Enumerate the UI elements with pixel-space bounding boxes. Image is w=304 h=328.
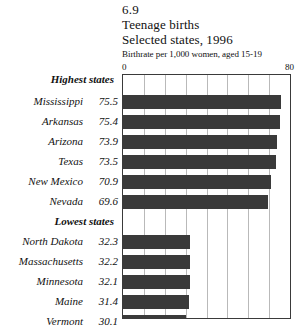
- bar-row: [123, 95, 290, 109]
- bar: [123, 235, 190, 249]
- bar: [123, 95, 281, 109]
- title-block: 6.9 Teenage births Selected states, 1996…: [122, 2, 304, 61]
- bar: [123, 135, 277, 149]
- category-label: Arkansas: [42, 114, 83, 128]
- category-label-row: Minnesota32.1: [0, 274, 118, 288]
- data-value-label: 73.9: [88, 134, 118, 148]
- bar: [123, 155, 276, 169]
- bar: [123, 295, 189, 309]
- category-label-row: Nevada69.6: [0, 194, 118, 208]
- figure-teenage-births: 6.9 Teenage births Selected states, 1996…: [0, 0, 304, 328]
- category-label-row: Mississippi75.5: [0, 94, 118, 108]
- category-label: Texas: [58, 154, 83, 168]
- data-value-label: 75.5: [88, 94, 118, 108]
- data-value-label: 32.3: [88, 234, 118, 248]
- x-axis-max-label: 80: [278, 62, 294, 72]
- bar: [123, 275, 190, 289]
- category-label-row: North Dakota32.3: [0, 234, 118, 248]
- bar-row: [123, 255, 290, 269]
- data-value-label: 75.4: [88, 114, 118, 128]
- bar: [123, 255, 190, 269]
- data-value-label: 32.2: [88, 254, 118, 268]
- category-label: Minnesota: [37, 274, 83, 288]
- category-label: North Dakota: [22, 234, 83, 248]
- data-value-label: 73.5: [88, 154, 118, 168]
- bar-row: [123, 115, 290, 129]
- bar-row: [123, 135, 290, 149]
- group-heading: Highest states: [0, 72, 118, 86]
- bar: [123, 195, 268, 209]
- bar-row: [123, 275, 290, 289]
- category-label-row: New Mexico70.9: [0, 174, 118, 188]
- category-label-row: Maine31.4: [0, 294, 118, 308]
- data-value-label: 70.9: [88, 174, 118, 188]
- bar-row: [123, 295, 290, 309]
- axis-units-note: Birthrate per 1,000 women, aged 15-19: [122, 48, 304, 61]
- category-label-row: Arizona73.9: [0, 134, 118, 148]
- bar-row: [123, 315, 290, 319]
- group-heading: Lowest states: [0, 214, 118, 228]
- bar-row: [123, 235, 290, 249]
- category-label: Nevada: [49, 194, 83, 208]
- data-value-label: 31.4: [88, 294, 118, 308]
- bar: [123, 315, 186, 319]
- figure-title-line2: Selected states, 1996: [122, 32, 304, 47]
- data-value-label: 30.1: [88, 314, 118, 328]
- data-value-label: 32.1: [88, 274, 118, 288]
- bar-row: [123, 175, 290, 189]
- bar-rows: [123, 75, 290, 318]
- category-label: New Mexico: [28, 174, 83, 188]
- category-label: Maine: [55, 294, 83, 308]
- figure-title-line1: Teenage births: [122, 17, 304, 32]
- category-label-column: Highest statesMississippi75.5Arkansas75.…: [0, 74, 120, 319]
- category-label-row: Vermont30.1: [0, 314, 118, 328]
- category-label: Massachusetts: [19, 254, 83, 268]
- plot-area: [122, 74, 291, 319]
- bar: [123, 115, 280, 129]
- bar-row: [123, 195, 290, 209]
- gridline: [290, 75, 291, 318]
- bar-row: [123, 155, 290, 169]
- bar: [123, 175, 271, 189]
- category-label: Arizona: [48, 134, 83, 148]
- category-label: Mississippi: [33, 94, 83, 108]
- x-axis-min-label: 0: [122, 62, 127, 72]
- category-label-row: Texas73.5: [0, 154, 118, 168]
- category-label-row: Massachusetts32.2: [0, 254, 118, 268]
- category-label: Vermont: [46, 314, 83, 328]
- category-label-row: Arkansas75.4: [0, 114, 118, 128]
- figure-number: 6.9: [122, 2, 304, 17]
- data-value-label: 69.6: [88, 194, 118, 208]
